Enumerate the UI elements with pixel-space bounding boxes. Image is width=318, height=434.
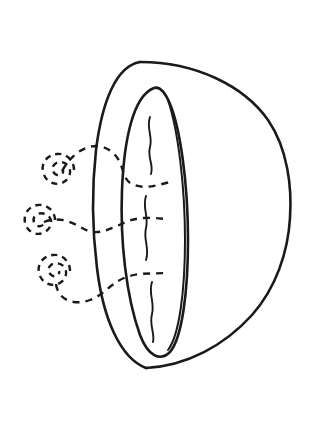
line-drawing-illustration	[0, 0, 318, 434]
drawing-canvas	[0, 0, 318, 434]
